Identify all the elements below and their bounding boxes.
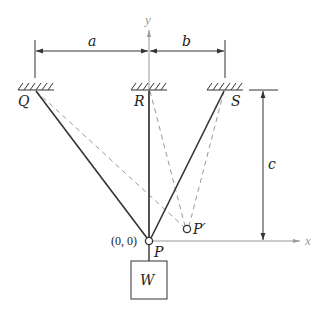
weight-label: W — [140, 272, 156, 288]
support-s-label: S — [231, 93, 241, 109]
dimension-b-label: b — [182, 33, 191, 49]
dimension-a-b: a b — [35, 33, 225, 78]
cable-sp — [151, 91, 224, 238]
coordinate-axes: x y — [143, 12, 311, 248]
support-r-label: R — [133, 93, 145, 109]
diagram-svg: x y a b Q R S — [0, 0, 329, 316]
x-axis-label: x — [304, 233, 311, 248]
support-s — [207, 83, 243, 90]
origin-label: (0, 0) — [111, 234, 137, 248]
cable-qp — [36, 91, 147, 238]
dashed-cable-q — [36, 91, 184, 227]
point-p-prime — [183, 225, 190, 232]
cables — [36, 91, 224, 238]
dimension-a-label: a — [88, 33, 96, 49]
dimension-c-label: c — [268, 156, 276, 172]
point-p-prime-label: P′ — [192, 221, 206, 237]
dashed-cable-s — [189, 91, 224, 226]
support-q-label: Q — [18, 93, 30, 109]
point-p — [145, 237, 152, 244]
support-q — [18, 83, 54, 90]
point-p-label: P — [153, 244, 164, 260]
dimension-c: c — [249, 90, 278, 240]
y-axis-label: y — [143, 12, 151, 27]
displaced-cables — [36, 91, 224, 227]
cable-diagram: x y a b Q R S — [0, 0, 329, 316]
